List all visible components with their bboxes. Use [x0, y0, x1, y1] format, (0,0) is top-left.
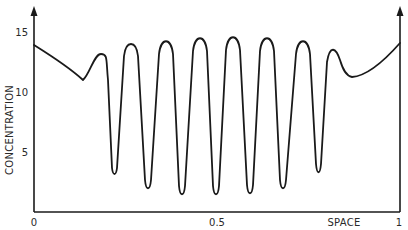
y-axis-label: CONCENTRATION [4, 85, 15, 175]
y-axis-right-arrow-icon [397, 6, 404, 16]
y-tick-10: 10 [15, 87, 28, 98]
x-axis-label: SPACE [327, 217, 360, 228]
axes [34, 14, 400, 212]
y-tick-15: 15 [15, 27, 28, 38]
concentration-curve [34, 37, 400, 194]
y-axis-left-arrow-icon [31, 6, 38, 16]
y-tick-5: 5 [22, 147, 28, 158]
x-tick-0: 0 [31, 217, 37, 228]
x-tick-0-5: 0.5 [209, 217, 225, 228]
x-tick-1: 1 [396, 217, 402, 228]
concentration-chart: 15 10 5 0 0.5 1 SPACE CONCENTRATION [0, 0, 408, 230]
